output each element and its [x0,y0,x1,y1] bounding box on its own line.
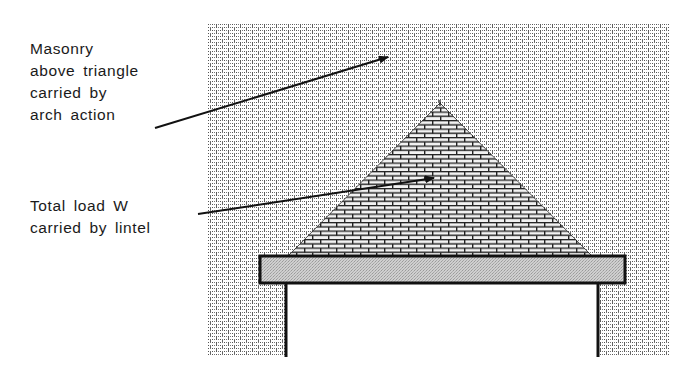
label-line: arch action [30,104,139,126]
label-masonry-arch-action: Masonry above triangle carried by arch a… [30,38,139,126]
label-line: above triangle [30,60,139,82]
label-line: Total load W [30,195,150,217]
wall-opening [286,283,598,363]
lintel-beam [260,256,625,283]
label-line: carried by lintel [30,217,150,239]
label-line: carried by [30,82,139,104]
label-line: Masonry [30,38,139,60]
label-total-load-lintel: Total load W carried by lintel [30,195,150,239]
